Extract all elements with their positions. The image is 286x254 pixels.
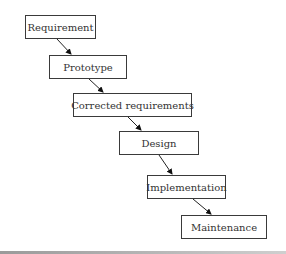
arrow-corrected-to-design (128, 117, 141, 130)
step-design: Design (119, 131, 199, 155)
step-prototype: Prototype (49, 55, 127, 79)
arrow-design-to-implementation (159, 155, 172, 174)
arrow-implementation-to-maintenance (193, 199, 211, 214)
arrow-requirement-to-prototype (57, 39, 71, 54)
step-maintenance: Maintenance (181, 215, 267, 239)
step-implementation: Implementation (147, 175, 226, 199)
step-requirement: Requirement (25, 15, 96, 39)
arrow-prototype-to-corrected (89, 79, 103, 92)
step-corrected-requirements: Corrected requirements (73, 93, 192, 117)
